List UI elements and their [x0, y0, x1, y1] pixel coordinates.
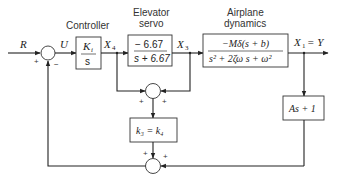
svg-text:X: X [293, 36, 302, 48]
svg-text:+: + [163, 152, 168, 161]
svg-text:k₃ = k₄: k₃ = k₄ [136, 125, 164, 136]
svg-text:s: s [85, 56, 90, 67]
svg-text:+: + [139, 97, 144, 106]
svg-text:+: + [143, 149, 148, 158]
elevator-servo-block: Elevator servo − 6.67 s + 6.67 [128, 7, 172, 66]
svg-text:K: K [82, 40, 91, 52]
svg-text:Elevator: Elevator [133, 7, 170, 18]
svg-text:i: i [91, 46, 93, 54]
svg-text:3: 3 [185, 44, 189, 52]
svg-text:+: + [34, 57, 39, 66]
main-summing-junction: + − [34, 46, 59, 69]
block-diagram: R + − U Controller K i s X 4 Elevator se… [0, 0, 343, 186]
outer-feedback-line [48, 61, 146, 166]
svg-text:As + 1: As + 1 [288, 103, 316, 114]
airplane-dynamics-block: Airplane dynamics −Mδ(s + b) s² + 2ζω s … [203, 7, 288, 67]
svg-text:− 6.67: − 6.67 [135, 39, 164, 50]
svg-text:4: 4 [112, 44, 116, 52]
sensor-block: As + 1 [283, 96, 324, 120]
svg-text:X: X [103, 38, 112, 50]
input-signal-r: R [8, 38, 40, 53]
svg-text:Airplane: Airplane [227, 7, 264, 18]
svg-text:U: U [60, 38, 69, 50]
svg-text:−: − [54, 60, 59, 69]
svg-text:X: X [176, 38, 185, 50]
output-signal-y: X 1 = Y [288, 36, 328, 53]
svg-text:= Y: = Y [307, 36, 325, 48]
svg-text:1: 1 [302, 42, 306, 50]
svg-text:servo: servo [139, 18, 164, 29]
signal-x4: X 4 [101, 38, 128, 53]
signal-x3: X 3 [172, 38, 203, 53]
lower-summing-junction: + + [143, 149, 168, 174]
svg-text:R: R [19, 38, 27, 50]
svg-text:+: + [162, 97, 167, 106]
svg-text:−Mδ(s + b): −Mδ(s + b) [222, 38, 270, 50]
svg-text:s² + 2ζω s + ω²: s² + 2ζω s + ω² [209, 53, 272, 65]
svg-text:s + 6.67: s + 6.67 [134, 53, 170, 64]
sensor-branch [303, 52, 305, 96]
svg-text:dynamics: dynamics [224, 18, 266, 29]
gain-k3-block: k₃ = k₄ [130, 118, 177, 142]
controller-title: Controller [66, 20, 110, 31]
error-signal-u: U [55, 38, 76, 53]
